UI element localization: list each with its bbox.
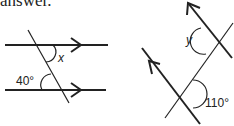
angle-label-y: y: [185, 33, 193, 47]
angle-arc-40: [41, 74, 51, 90]
transversal-left: [28, 30, 69, 103]
angle-diagrams: x 40° y 110°: [0, 0, 234, 126]
left-diagram: [5, 30, 108, 103]
angle-arc-x: [46, 45, 56, 62]
parallel-arrow-lower-icon: [149, 61, 160, 74]
angle-arc-y: [190, 28, 206, 54]
parallel-line-lower: [142, 48, 200, 124]
angle-label-x: x: [57, 51, 65, 65]
angle-label-110: 110°: [205, 96, 229, 110]
angle-label-40: 40°: [16, 74, 34, 88]
